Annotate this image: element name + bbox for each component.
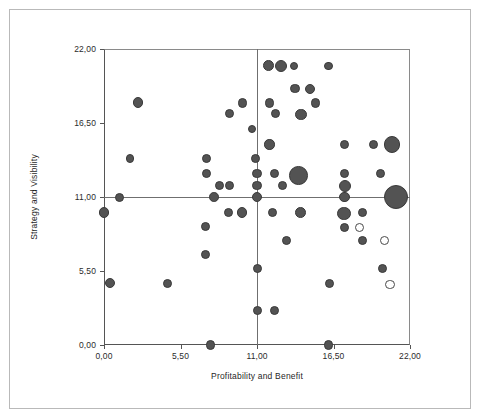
data-point — [380, 236, 389, 245]
data-point — [384, 185, 409, 210]
data-point — [290, 84, 300, 94]
data-point — [376, 169, 385, 178]
x-tick-mark — [104, 345, 105, 349]
data-point — [339, 180, 351, 192]
data-point — [295, 207, 306, 218]
y-tick-mark — [100, 345, 104, 346]
data-point — [252, 192, 263, 203]
data-point — [253, 306, 262, 315]
data-point — [251, 154, 260, 163]
data-point — [337, 207, 350, 220]
y-tick-mark — [100, 271, 104, 272]
data-point — [237, 207, 247, 217]
x-tick-label: 5,50 — [172, 351, 189, 361]
data-point — [339, 192, 350, 203]
data-point — [295, 109, 306, 120]
y-tick-label: 16,50 — [64, 118, 96, 128]
data-point — [385, 280, 395, 290]
data-point — [253, 264, 262, 273]
data-point — [215, 181, 224, 190]
data-point — [305, 84, 315, 94]
data-point — [252, 169, 262, 179]
x-axis-title: Profitability and Benefit — [104, 371, 410, 381]
x-tick-mark — [410, 345, 411, 349]
y-tick-label: 5,50 — [64, 266, 96, 276]
data-point — [209, 192, 219, 202]
data-point — [99, 207, 110, 218]
data-point — [270, 306, 279, 315]
plot-area — [104, 49, 410, 345]
data-point — [275, 60, 287, 72]
data-point — [224, 208, 233, 217]
data-point — [340, 223, 349, 232]
data-point — [265, 98, 275, 108]
x-tick-label: 11,00 — [246, 351, 267, 361]
y-tick-label: 11,00 — [64, 192, 96, 202]
data-point — [378, 264, 387, 273]
data-point — [264, 139, 274, 149]
data-point — [268, 208, 277, 217]
data-point — [324, 340, 334, 350]
y-tick-mark — [100, 49, 104, 50]
data-point — [369, 140, 378, 149]
x-tick-label: 0,00 — [96, 351, 113, 361]
y-tick-mark — [100, 123, 104, 124]
data-point — [355, 223, 364, 232]
data-point — [384, 136, 401, 153]
x-tick-mark — [334, 345, 335, 349]
data-point — [115, 193, 124, 202]
data-point — [325, 279, 334, 288]
y-tick-label: 22,00 — [64, 44, 96, 54]
data-point — [340, 140, 349, 149]
data-point — [248, 125, 256, 133]
data-point — [202, 169, 211, 178]
data-point — [358, 236, 367, 245]
data-point — [202, 154, 211, 163]
data-point — [278, 181, 287, 190]
data-point — [238, 98, 248, 108]
data-point — [201, 222, 210, 231]
chart-screenshot: 0,005,5011,0016,5022,000,005,5011,0016,5… — [0, 0, 482, 420]
data-point — [201, 250, 210, 259]
x-tick-label: 22,00 — [399, 351, 421, 361]
data-point — [282, 236, 291, 245]
data-point — [358, 208, 367, 217]
y-tick-mark — [100, 197, 104, 198]
data-point — [340, 169, 349, 178]
data-point — [289, 166, 308, 185]
x-tick-mark — [181, 345, 182, 349]
y-tick-label: 0,00 — [64, 340, 96, 350]
x-tick-label: 16,50 — [323, 351, 345, 361]
x-tick-mark — [257, 345, 258, 349]
data-point — [126, 154, 134, 162]
data-point — [133, 97, 144, 108]
data-point — [163, 279, 172, 288]
data-point — [263, 60, 274, 71]
data-point — [270, 169, 279, 178]
y-axis-title: Strategy and Visibility — [29, 154, 39, 240]
data-point — [225, 109, 234, 118]
data-point — [225, 181, 234, 190]
data-point — [271, 109, 280, 118]
data-point — [105, 278, 115, 288]
data-point — [290, 62, 298, 70]
data-point — [206, 340, 216, 350]
data-point — [324, 62, 332, 70]
data-point — [252, 181, 262, 191]
data-point — [311, 98, 321, 108]
